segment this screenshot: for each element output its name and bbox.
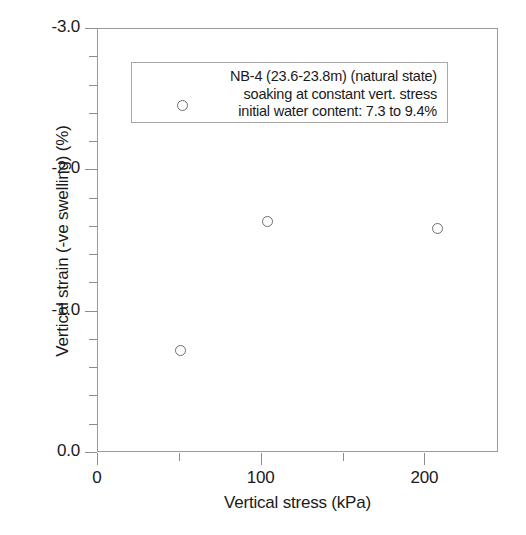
y-tick-minor (89, 339, 97, 340)
x-tick-major (424, 453, 425, 465)
data-point (262, 216, 273, 227)
legend-text: NB-4 (23.6-23.8m) (natural state) soakin… (140, 68, 443, 121)
y-tick-minor (89, 85, 97, 86)
legend-line-3: initial water content: 7.3 to 9.4% (140, 103, 437, 121)
x-tick-major (261, 453, 262, 465)
y-tick-major (85, 28, 97, 29)
data-point (175, 345, 186, 356)
y-tick-minor (89, 198, 97, 199)
y-tick-minor (89, 254, 97, 255)
chart-figure: -3.0-2.0-1.00.00100200 Vertical stress (… (0, 0, 526, 535)
y-tick-minor (89, 367, 97, 368)
y-tick-minor (89, 424, 97, 425)
y-tick-minor (89, 56, 97, 57)
x-tick-major (97, 453, 98, 465)
y-tick-minor (89, 226, 97, 227)
x-tick-label: 100 (231, 468, 291, 488)
x-tick-label: 200 (394, 468, 454, 488)
y-tick-minor (89, 113, 97, 114)
y-tick-major (85, 169, 97, 170)
x-axis-title: Vertical stress (kPa) (97, 493, 498, 513)
legend-line-2: soaking at constant vert. stress (140, 86, 437, 104)
y-tick-minor (89, 395, 97, 396)
legend-line-1: NB-4 (23.6-23.8m) (natural state) (140, 68, 437, 86)
legend: NB-4 (23.6-23.8m) (natural state) soakin… (131, 62, 448, 123)
y-tick-major (85, 452, 97, 453)
x-tick-minor (179, 453, 180, 461)
x-tick-label: 0 (67, 468, 127, 488)
x-tick-minor (343, 453, 344, 461)
y-tick-major (85, 311, 97, 312)
y-axis-title: Vertical strain (-ve swelling) (%) (53, 31, 73, 451)
y-tick-minor (89, 141, 97, 142)
y-tick-minor (89, 282, 97, 283)
